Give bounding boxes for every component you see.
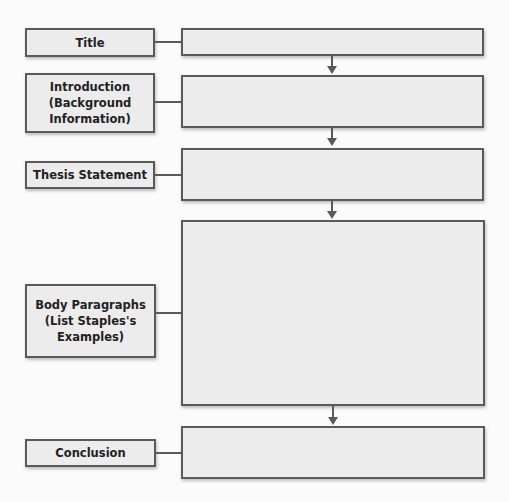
arrow-down-icon: [328, 417, 338, 425]
label-thesis-statement-text: Thesis Statement: [33, 167, 147, 183]
arrow-down-icon: [327, 66, 337, 74]
label-conclusion-text: Conclusion: [55, 445, 125, 461]
content-box-conclusion: [181, 426, 485, 479]
label-body-paragraphs: Body Paragraphs (List Staples's Examples…: [25, 284, 156, 358]
label-introduction: Introduction (Background Information): [25, 73, 155, 133]
label-conclusion: Conclusion: [25, 439, 156, 467]
label-title-text: Title: [75, 35, 104, 51]
arrow-down-icon: [327, 211, 337, 219]
arrow-down-icon: [327, 138, 337, 146]
label-introduction-text: Introduction (Background Information): [33, 79, 147, 127]
label-body-paragraphs-text: Body Paragraphs (List Staples's Examples…: [33, 297, 148, 345]
content-box-title: [181, 28, 484, 56]
content-box-thesis-statement: [181, 148, 484, 201]
label-thesis-statement: Thesis Statement: [25, 161, 155, 189]
content-box-body-paragraphs: [181, 220, 485, 406]
connector-title: [155, 41, 181, 43]
connector-conclusion: [156, 452, 182, 454]
connector-body-paragraphs: [156, 312, 182, 314]
content-box-introduction: [181, 75, 484, 128]
connector-introduction: [155, 101, 181, 103]
connector-thesis-statement: [155, 174, 181, 176]
label-title: Title: [25, 28, 155, 57]
